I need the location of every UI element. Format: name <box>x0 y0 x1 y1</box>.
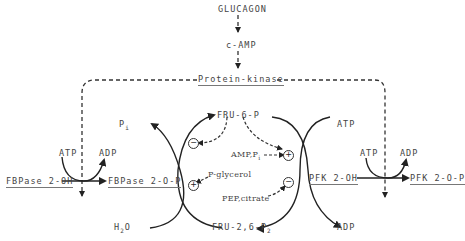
amp-pi-label: AMP,Pi <box>231 150 260 161</box>
left-adp-label: ADP <box>99 148 117 158</box>
right-atp-label: ATP <box>360 148 378 158</box>
left-atp-label: ATP <box>59 148 77 158</box>
camp-label: c-AMP <box>226 40 257 50</box>
right-phosphorylation <box>357 158 408 178</box>
minus-sign-icon: − <box>188 138 199 149</box>
glucagon-label: GLUCAGON <box>218 4 267 14</box>
pep-citrate-label: PEP,citrate <box>222 194 270 203</box>
fru-6-p-label: FRU-6-P <box>217 110 260 120</box>
pi-label: Pi <box>119 119 130 131</box>
cycle-adp-label: ADP <box>337 222 355 232</box>
plus-sign-icon: + <box>188 180 199 191</box>
p-glycerol-label: P-glycerol <box>208 170 251 179</box>
h2o-label: H2O <box>114 222 131 234</box>
cycle-atp-label: ATP <box>337 119 355 129</box>
right-adp-label: ADP <box>400 148 418 158</box>
pfk-2-o-p-label: PFK 2-O-P <box>410 173 465 185</box>
fru-2-6-p2-label: FRU-2,6-P2 <box>212 222 272 234</box>
fbpase-2-oh-label: FBPase 2-OH <box>6 176 73 188</box>
protein-kinase-label: Protein-kinase <box>198 74 284 86</box>
plus-sign-icon: + <box>283 150 294 161</box>
pfk-2-oh-label: PFK 2-OH <box>309 173 358 185</box>
minus-sign-icon: − <box>283 177 294 188</box>
fbpase-2-o-p-label: FBPase 2-O-P <box>108 176 181 188</box>
